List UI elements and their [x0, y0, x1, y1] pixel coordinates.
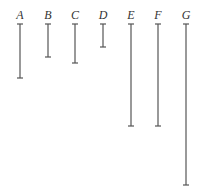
segment-label: E: [126, 8, 135, 22]
segment-e: E: [126, 8, 135, 126]
segment-b: B: [44, 8, 52, 57]
segment-label: G: [182, 8, 191, 22]
segment-label: D: [98, 8, 108, 22]
segment-g: G: [182, 8, 191, 185]
segment-a: A: [15, 8, 24, 78]
segment-label: F: [153, 8, 162, 22]
segment-c: C: [71, 8, 80, 63]
line-segments-diagram: ABCDEFG: [0, 0, 210, 186]
segment-f: F: [153, 8, 162, 126]
segment-label: B: [44, 8, 52, 22]
segment-label: A: [15, 8, 24, 22]
segment-d: D: [98, 8, 108, 47]
segment-label: C: [71, 8, 80, 22]
